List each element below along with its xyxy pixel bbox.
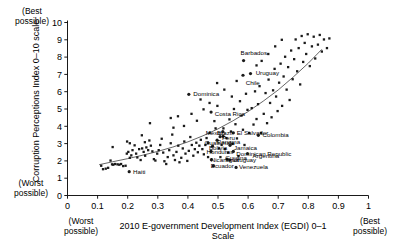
data-point [279, 63, 281, 65]
labeled-data-point [128, 170, 131, 173]
data-point [282, 75, 284, 77]
data-point [194, 148, 196, 150]
y-tick-label: 2 [57, 156, 62, 166]
data-point [290, 49, 292, 51]
data-point [158, 149, 160, 151]
data-point [191, 144, 193, 146]
data-point [328, 37, 330, 39]
data-point [236, 80, 238, 82]
x-tick-label: 0.2 [121, 201, 134, 211]
labeled-data-point [241, 74, 244, 77]
data-point [129, 142, 131, 144]
data-point-label: Dominica [193, 90, 219, 97]
labeled-data-point [242, 59, 245, 62]
data-point [295, 38, 297, 40]
data-point-label: Argentina [253, 152, 280, 159]
labeled-data-point [209, 111, 212, 114]
data-point-label: Haiti [133, 168, 145, 175]
data-point [304, 42, 306, 44]
data-point [287, 66, 289, 68]
point-labels-group: BarbadosUruguayChileDominicaCosta RicaEl… [128, 49, 292, 174]
labeled-data-point [187, 93, 190, 96]
data-point-label: Uruguay [256, 69, 280, 76]
data-point [293, 58, 295, 60]
data-point [183, 140, 185, 142]
data-point [162, 151, 164, 153]
data-point [276, 110, 278, 112]
x-tick-label: 0.8 [302, 201, 315, 211]
x-tick-label: 0.9 [332, 201, 345, 211]
data-point [150, 145, 152, 147]
data-point [139, 159, 141, 161]
data-point [239, 100, 241, 102]
y-tick-label: 8 [57, 52, 62, 62]
x-tick-label: 0.6 [242, 201, 255, 211]
data-point [305, 53, 307, 55]
data-point [175, 151, 177, 153]
data-point-label: Costa Rica [215, 110, 246, 117]
data-point-label: Venezuela [239, 163, 268, 170]
scatter-plot-canvas: 01234567891000.10.20.30.40.50.60.70.80.9… [0, 0, 408, 252]
data-point [126, 140, 128, 142]
data-point [234, 123, 236, 125]
data-point [213, 120, 215, 122]
data-point [314, 57, 316, 59]
data-point [309, 65, 311, 67]
data-point [208, 102, 210, 104]
data-point [109, 159, 111, 161]
data-point [272, 89, 274, 91]
y-tick-label: 4 [57, 122, 62, 132]
x-tick-label: 0 [65, 201, 70, 211]
data-point [246, 109, 248, 111]
data-point [145, 146, 147, 148]
data-point [102, 168, 104, 170]
data-point [251, 107, 253, 109]
data-point [196, 120, 198, 122]
x-tick-label: 0.7 [272, 201, 285, 211]
data-point [178, 161, 180, 163]
data-point [270, 116, 272, 118]
axes-group: 01234567891000.10.20.30.40.50.60.70.80.9… [52, 18, 371, 211]
data-point-label: Colombia [263, 131, 290, 138]
data-point [177, 115, 179, 117]
data-point [281, 39, 283, 41]
data-point [168, 149, 170, 151]
data-point [302, 61, 304, 63]
data-point [285, 88, 287, 90]
data-point [127, 151, 129, 153]
data-point [107, 167, 109, 169]
x-tick-label: 0.5 [212, 201, 225, 211]
data-point [184, 152, 186, 154]
data-point [274, 45, 276, 47]
data-point [255, 64, 257, 66]
x-tick-label: 1 [366, 201, 371, 211]
data-point [144, 141, 146, 143]
data-point [281, 105, 283, 107]
data-point [177, 145, 179, 147]
data-point [180, 157, 182, 159]
data-point [135, 152, 137, 154]
data-point [207, 156, 209, 158]
data-point [143, 151, 145, 153]
data-point [288, 99, 290, 101]
data-point [321, 50, 323, 52]
data-point [319, 34, 321, 36]
x-tick-label: 0.4 [182, 201, 195, 211]
data-point [131, 149, 133, 151]
labeled-data-point [228, 144, 231, 147]
data-point [151, 150, 153, 152]
data-point [122, 165, 124, 167]
data-point [203, 153, 205, 155]
data-point [200, 139, 202, 141]
data-point [170, 142, 172, 144]
y-tick-label: 3 [57, 139, 62, 149]
data-point [267, 53, 269, 55]
data-point [269, 102, 271, 104]
data-point [189, 136, 191, 138]
data-point [266, 122, 268, 124]
data-point [216, 105, 218, 107]
data-point [197, 151, 199, 153]
data-point [172, 154, 174, 156]
x-axis-title: 2010 E-government Development Index (EGD… [108, 221, 338, 241]
data-point [284, 56, 286, 58]
